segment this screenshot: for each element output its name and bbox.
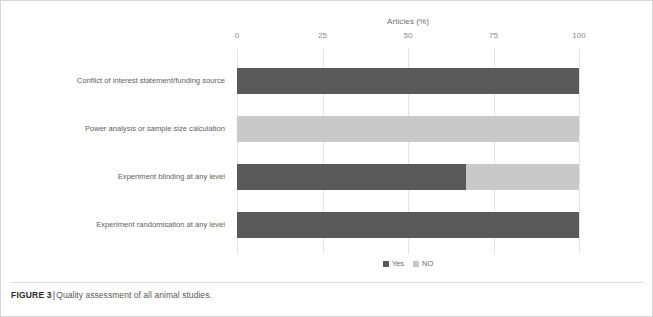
category-label-experiment-blinding: Experiment blinding at any level [118, 164, 225, 190]
bar-row-experiment-blinding [237, 164, 579, 190]
chart-legend: Yes NO [237, 259, 579, 268]
bar-segment-yes [237, 68, 579, 94]
x-tick-100: 100 [572, 31, 585, 40]
x-tick-50: 50 [404, 31, 413, 40]
legend-swatch-yes [383, 261, 389, 267]
bar-segment-no [466, 164, 579, 190]
plot-area [237, 49, 579, 254]
legend-label-yes: Yes [392, 259, 404, 268]
bar-segment-no [237, 116, 579, 142]
category-label-experiment-randomisation: Experiment randomisation at any level [96, 212, 225, 238]
caption-divider [10, 282, 643, 283]
x-tick-25: 25 [318, 31, 327, 40]
legend-item-no: NO [413, 259, 433, 268]
gridline-100 [579, 49, 580, 254]
figure-number: FIGURE 3 [11, 290, 52, 300]
category-label-conflict-of-interest: Conflict of interest statement/funding s… [77, 68, 225, 94]
bar-segment-yes [237, 164, 466, 190]
y-axis-category-labels: Conflict of interest statement/funding s… [1, 49, 231, 254]
legend-swatch-no [413, 261, 419, 267]
bar-row-conflict-of-interest [237, 68, 579, 94]
category-label-power-analysis: Power analysis or sample size calculatio… [85, 116, 225, 142]
legend-item-yes: Yes [383, 259, 404, 268]
x-axis-tick-labels: 0 25 50 75 100 [237, 31, 579, 43]
figure-caption: FIGURE 3|Quality assessment of all anima… [11, 290, 212, 300]
x-tick-0: 0 [235, 31, 239, 40]
figure-panel: Articles (%) 0 25 50 75 100 Conflict of … [0, 0, 653, 317]
bar-segment-yes [237, 212, 579, 238]
chart-container: Articles (%) 0 25 50 75 100 Conflict of … [1, 1, 652, 279]
caption-text: Quality assessment of all animal studies… [56, 290, 212, 300]
legend-label-no: NO [422, 259, 433, 268]
x-axis-title: Articles (%) [237, 17, 579, 26]
x-tick-75: 75 [489, 31, 498, 40]
bar-row-experiment-randomisation [237, 212, 579, 238]
bar-row-power-analysis [237, 116, 579, 142]
